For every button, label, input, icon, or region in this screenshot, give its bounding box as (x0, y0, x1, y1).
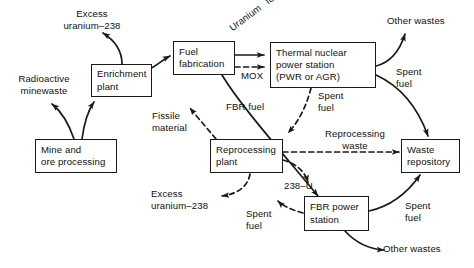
label-other-wastes-top-text: Other wastes (387, 15, 445, 27)
label-spent-fuel-thermal: Spent fuel (318, 90, 344, 113)
node-thermal-power-station-line-2: (PWR or AGR) (276, 71, 370, 83)
node-enrichment-plant[interactable]: Enrichment plant (91, 64, 152, 97)
node-fbr-power-station[interactable]: FBR power station (304, 196, 369, 231)
label-fbr-fuel-text: FBR fuel (226, 101, 264, 113)
label-other-wastes-bottom-text: Other wastes (383, 243, 441, 255)
node-mine-ore-processing-line-0: Mine and (41, 144, 111, 156)
arrow-reprocessing-to-fuel-fabrication (190, 108, 216, 139)
label-mox: MOX (241, 70, 263, 82)
node-waste-repository-line-0: Waste (407, 144, 454, 156)
label-fissile-material-line-0: Fissile (152, 110, 187, 122)
label-excess-uranium-238-bottom: Excess uranium–238 (151, 188, 208, 211)
node-reprocessing-plant-line-0: Reprocessing (216, 144, 277, 156)
arrow-thermal-to-other-wastes (376, 34, 405, 66)
arrow-thermal-to-reprocessing (288, 88, 311, 133)
label-excess-uranium-238-top-line-0: Excess (45, 8, 139, 20)
node-thermal-power-station-line-0: Thermal nuclear (276, 47, 370, 59)
node-enrichment-plant-line-0: Enrichment (97, 68, 146, 80)
label-spent-fuel-right-bottom: Spent fuel (405, 200, 431, 223)
label-spent-fuel-right-top-line-0: Spent (396, 66, 422, 78)
node-fbr-power-station-line-0: FBR power (310, 201, 363, 213)
label-excess-uranium-238-bottom-line-0: Excess (151, 188, 208, 200)
label-spent-fuel-right-bottom-line-1: fuel (405, 212, 431, 224)
node-fuel-fabrication-line-1: fabrication (179, 58, 229, 70)
label-excess-uranium-238-bottom-line-1: uranium–238 (151, 200, 208, 212)
label-spent-fuel-bottom-left-line-1: fuel (246, 220, 272, 232)
node-mine-ore-processing[interactable]: Mine and ore processing (35, 139, 117, 173)
arrow-enrichment-to-excess-u238 (103, 33, 122, 64)
nuclear-fuel-cycle-diagram: Enrichment plant Fuel fabrication Therma… (0, 0, 474, 268)
label-other-wastes-bottom: Other wastes (383, 243, 441, 255)
label-fissile-material: Fissile material (152, 110, 187, 133)
arrow-mine-to-minewaste (52, 104, 74, 139)
label-radioactive-minewaste-line-0: Radioactive (1, 73, 87, 85)
node-waste-repository[interactable]: Waste repository (401, 139, 460, 173)
arrow-reprocessing-to-excess-u238 (222, 174, 250, 196)
label-spent-fuel-thermal-line-1: fuel (318, 102, 344, 114)
label-fissile-material-line-1: material (152, 122, 187, 134)
node-enrichment-plant-line-1: plant (97, 81, 146, 93)
label-spent-fuel-right-top: Spent fuel (396, 66, 422, 89)
arrow-fuel-fabrication-to-fbr (222, 75, 318, 196)
label-reprocessing-waste-line-0: Reprocessing (315, 128, 395, 140)
label-excess-uranium-238-top-line-1: uranium–238 (45, 20, 139, 32)
label-spent-fuel-right-top-line-1: fuel (396, 78, 422, 90)
label-reprocessing-waste-line-1: waste (315, 140, 395, 152)
node-reprocessing-plant[interactable]: Reprocessing plant (210, 139, 283, 173)
label-spent-fuel-thermal-line-0: Spent (318, 90, 344, 102)
node-thermal-power-station[interactable]: Thermal nuclear power station (PWR or AG… (270, 42, 376, 88)
label-spent-fuel-bottom-left: Spent fuel (246, 208, 272, 231)
node-fuel-fabrication[interactable]: Fuel fabrication (173, 41, 235, 75)
label-spent-fuel-bottom-left-line-0: Spent (246, 208, 272, 220)
flow-arrows-layer (0, 0, 474, 268)
label-u-238: 238–U (284, 180, 313, 192)
label-radioactive-minewaste-line-1: minewaste (1, 85, 87, 97)
label-u-238-text: 238–U (284, 180, 313, 192)
arrow-enrichment-to-fuel-fabrication (150, 56, 170, 69)
node-fbr-power-station-line-1: station (310, 214, 363, 226)
arrow-mine-to-enrichment (82, 102, 94, 139)
arrow-fbr-to-reprocessing (278, 201, 303, 213)
label-mox-text: MOX (241, 70, 263, 82)
node-fuel-fabrication-line-0: Fuel (179, 46, 229, 58)
label-radioactive-minewaste: Radioactive minewaste (1, 73, 87, 96)
node-waste-repository-line-1: repository (407, 156, 454, 168)
label-reprocessing-waste: Reprocessing waste (315, 128, 395, 151)
label-excess-uranium-238-top: Excess uranium–238 (45, 8, 139, 31)
label-spent-fuel-right-bottom-line-0: Spent (405, 200, 431, 212)
label-fbr-fuel: FBR fuel (226, 101, 264, 113)
node-thermal-power-station-line-1: power station (276, 59, 370, 71)
node-reprocessing-plant-line-1: plant (216, 156, 277, 168)
label-other-wastes-top: Other wastes (387, 15, 445, 27)
arrow-fbr-to-other-wastes (345, 231, 384, 250)
node-mine-ore-processing-line-1: ore processing (41, 156, 111, 168)
